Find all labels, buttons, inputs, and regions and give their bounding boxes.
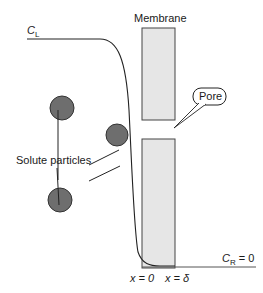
leader-line-2b — [89, 150, 119, 165]
x-delta-label: x = δ — [165, 272, 189, 284]
solute-particles-label: Solute particles — [16, 154, 91, 166]
c-right-label: CR = 0 — [222, 252, 254, 269]
solute-particle-2 — [106, 124, 128, 146]
leader-line-2 — [89, 166, 120, 181]
solute-particle-1 — [50, 96, 74, 120]
diagram-canvas — [0, 0, 263, 293]
c-right-value: = 0 — [236, 252, 255, 264]
c-left-subscript: L — [35, 30, 39, 39]
c-right-symbol: C — [222, 252, 230, 264]
c-left-symbol: C — [27, 24, 35, 36]
membrane-label: Membrane — [134, 12, 187, 24]
c-left-label: CL — [27, 24, 39, 41]
membrane-lower-block — [142, 139, 175, 268]
pore-callout-tail — [174, 103, 206, 128]
membrane-upper-block — [142, 28, 175, 120]
solute-particle-3 — [48, 188, 72, 212]
pore-label: Pore — [199, 90, 222, 102]
x-zero-label: x = 0 — [130, 272, 154, 284]
